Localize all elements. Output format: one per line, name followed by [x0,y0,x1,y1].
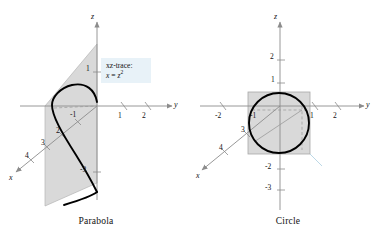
z-tick-label-1: 1 [86,64,90,73]
x-axis-label: x [9,173,13,182]
y-tick-label-2: 2 [142,111,146,120]
z-tick-label-1: 1 [271,75,275,84]
y-tick-label-1: 1 [118,111,122,120]
z-axis-label: z [274,12,277,21]
x-tick-label-2: 2 [56,126,60,135]
parabola-panel: y z x 1 2 1 -3 -1 2 3 4 xz-trace: x = z2 [0,0,192,249]
y-axis-label: y [174,100,178,109]
x-tick-label-neg1: -1 [70,110,76,119]
z-tick-label-neg2: -2 [265,162,271,171]
parabola-diagram [0,0,192,249]
xz-eq-rhs-exponent: 2 [120,69,123,75]
circle-diagram [192,0,384,249]
y-tick-label-neg1: -1 [250,111,256,120]
x-tick-label-4: 4 [25,151,29,160]
y-tick-label-2: 2 [333,111,337,120]
x-axis-label: x [196,171,200,180]
y-tick-label-neg2: -2 [215,111,221,120]
z-axis-label: z [91,12,94,21]
callout-leader-line [310,154,322,166]
x-tick-label-3: 3 [41,138,45,147]
circle-panel: y z x -2 -1 1 2 2 1 -2 -3 3 4 Trace in t… [192,0,384,249]
circle-caption: Circle [192,216,384,226]
xz-eq-lhs: x [106,71,109,80]
z-tick-label-2: 2 [270,52,274,61]
parabola-caption: Parabola [0,216,192,226]
xz-trace-callout-line2: x = z2 [106,71,146,81]
xz-eq-sign: = [111,71,115,80]
figure-pair: y z x 1 2 1 -3 -1 2 3 4 xz-trace: x = z2 [0,0,384,249]
x-tick-label-3: 3 [241,125,245,134]
z-tick-label-neg3: -3 [80,165,86,174]
x-tick-label-4: 4 [219,143,223,152]
xz-trace-callout: xz-trace: x = z2 [101,58,151,83]
z-tick-label-neg3: -3 [265,183,271,192]
y-tick-label-1: 1 [310,111,314,120]
y-axis-label: y [366,100,370,109]
xz-trace-callout-line1: xz-trace: [106,61,146,71]
